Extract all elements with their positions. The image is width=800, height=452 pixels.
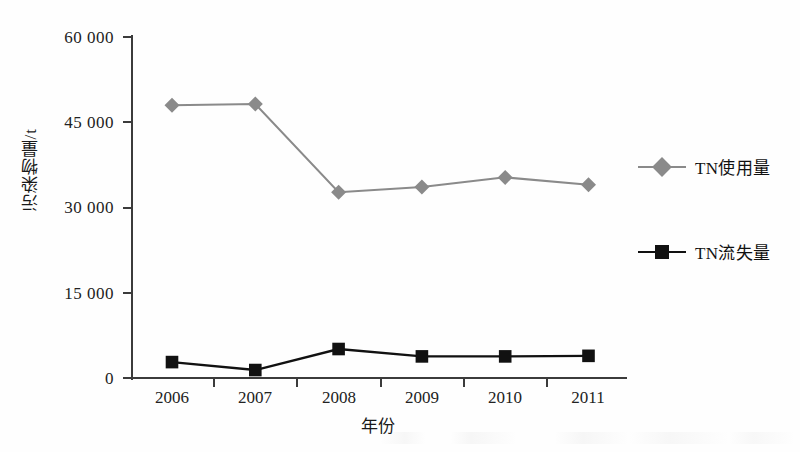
legend-item-tn-usage[interactable]: TN使用量 (638, 154, 770, 179)
data-point (582, 350, 595, 363)
series-tn-loss (166, 343, 595, 377)
data-point (166, 356, 179, 369)
y-tick-60000 (123, 36, 131, 38)
y-tick-label-45000: 45 000 (64, 113, 114, 133)
x-tick-boundary-4 (463, 379, 465, 387)
legend-item-tn-loss[interactable]: TN流失量 (638, 239, 770, 264)
y-tick-label-0: 0 (105, 369, 114, 389)
legend-swatch-tn-usage (638, 159, 686, 175)
y-axis-tick-labels: 60 000 45 000 30 000 15 000 0 (0, 0, 114, 452)
data-point (332, 343, 345, 356)
y-tick-15000 (123, 292, 131, 294)
x-axis-line (131, 377, 627, 379)
x-tick-label-2007: 2007 (238, 388, 272, 408)
y-tick-30000 (123, 207, 131, 209)
data-point (414, 180, 429, 195)
x-tick-label-2006: 2006 (155, 388, 189, 408)
data-point (416, 350, 429, 363)
x-tick-label-2011: 2011 (571, 388, 604, 408)
y-axis-title: 污染物量/t (22, 128, 46, 211)
y-tick-label-30000: 30 000 (64, 198, 114, 218)
data-point (498, 170, 513, 185)
legend-label-tn-usage: TN使用量 (695, 154, 770, 179)
y-axis-line (131, 35, 133, 380)
x-tick-boundary-3 (380, 379, 382, 387)
x-tick-boundary-1 (213, 379, 215, 387)
chart-page: 60 000 45 000 30 000 15 000 0 2006 2007 … (0, 0, 800, 452)
x-tick-boundary-5 (546, 379, 548, 387)
square-icon (655, 245, 669, 259)
x-tick-label-2008: 2008 (322, 388, 356, 408)
y-tick-label-60000: 60 000 (64, 28, 114, 48)
y-tick-45000 (123, 121, 131, 123)
series-plot (0, 0, 800, 452)
data-point (499, 350, 512, 363)
data-point (248, 97, 263, 112)
x-tick-label-2010: 2010 (488, 388, 522, 408)
series-tn-usage (165, 97, 597, 200)
legend-swatch-tn-loss (638, 244, 686, 260)
data-point (249, 364, 262, 377)
x-tick-boundary-2 (296, 379, 298, 387)
data-point (581, 177, 596, 192)
y-tick-0 (123, 377, 131, 379)
diamond-icon (652, 157, 672, 177)
x-tick-label-2009: 2009 (405, 388, 439, 408)
scan-artifact (380, 432, 795, 444)
y-tick-label-15000: 15 000 (64, 284, 114, 304)
legend-label-tn-loss: TN流失量 (695, 239, 770, 264)
data-point (165, 98, 180, 113)
data-point (331, 185, 346, 200)
